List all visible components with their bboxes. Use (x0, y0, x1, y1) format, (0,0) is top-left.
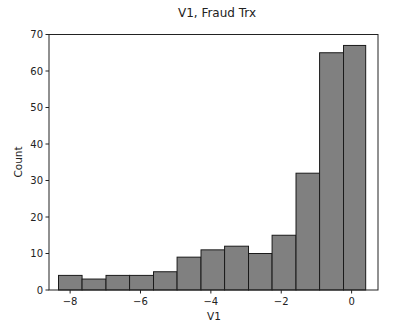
x-tick-label: −2 (274, 296, 289, 307)
x-tick-label: −4 (203, 296, 218, 307)
histogram-bar (225, 246, 249, 290)
x-tick-label: 0 (348, 296, 354, 307)
x-tick-label: −8 (63, 296, 78, 307)
y-axis-label: Count (12, 146, 24, 177)
y-tick-label: 40 (30, 139, 43, 150)
y-axis: 010203040506070 (30, 29, 49, 296)
y-tick-label: 70 (30, 29, 43, 40)
x-axis-label: V1 (207, 310, 221, 322)
histogram-bar (154, 272, 178, 290)
histogram-bar (320, 53, 344, 290)
histogram-bar (201, 250, 225, 290)
histogram-bar (82, 279, 106, 290)
x-axis: −8−6−4−20 (63, 290, 355, 307)
histogram-bar (106, 275, 130, 290)
chart-title: V1, Fraud Trx (178, 6, 256, 20)
y-tick-label: 30 (30, 175, 43, 186)
histogram-bar (272, 235, 296, 290)
histogram-bar (249, 254, 273, 291)
histogram-chart: V1, Fraud Trx 010203040506070 −8−6−4−20 … (0, 0, 397, 334)
y-tick-label: 60 (30, 66, 43, 77)
histogram-bar (177, 257, 201, 290)
histogram-bars (59, 45, 366, 290)
y-tick-label: 10 (30, 248, 43, 259)
histogram-bar (296, 173, 320, 290)
histogram-bar (344, 45, 366, 290)
histogram-bar (59, 275, 83, 290)
x-tick-label: −6 (133, 296, 148, 307)
y-tick-label: 20 (30, 212, 43, 223)
histogram-bar (130, 275, 154, 290)
y-tick-label: 50 (30, 102, 43, 113)
y-tick-label: 0 (37, 285, 43, 296)
